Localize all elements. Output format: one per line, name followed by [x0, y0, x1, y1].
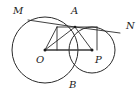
point-label-p: P: [94, 54, 102, 65]
segment-o-a: [45, 27, 75, 50]
vertex-dot-a: [74, 26, 77, 29]
vertex-dot-o: [44, 49, 47, 52]
point-label-b: B: [68, 79, 76, 90]
geometry-figure-container: M A N O P B: [0, 0, 140, 94]
segment-o-foot-left: [45, 27, 57, 50]
geometry-diagram: M A N O P B: [0, 0, 140, 94]
segment-m-a: [28, 20, 75, 27]
point-label-m: M: [12, 5, 24, 16]
point-label-n: N: [125, 20, 136, 31]
point-label-o: O: [36, 54, 44, 65]
vertex-dot-p: [91, 49, 94, 52]
point-label-a: A: [70, 5, 78, 16]
